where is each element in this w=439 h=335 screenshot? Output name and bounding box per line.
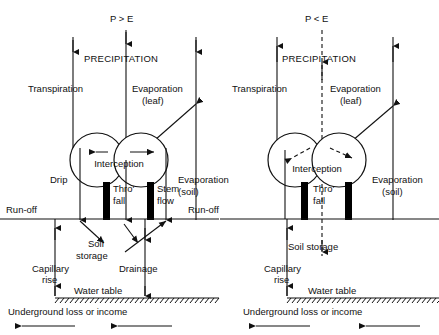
evaporation-soil-label-left-line1: Evaporation — [178, 174, 229, 185]
thro-fall-label-left-line2: fall — [113, 195, 125, 206]
trunk-right-1 — [301, 182, 308, 220]
capillary-rise-label-left-line1: Capillary — [32, 263, 69, 274]
soil-storage-arrow-left-2 — [124, 224, 138, 243]
evaporation-soil-label-right-line2: (soil) — [382, 186, 403, 197]
condition-label-left: P > E — [110, 13, 133, 24]
precipitation-label-right: PRECIPITATION — [282, 53, 356, 64]
underground-label-right: Underground loss or income — [243, 306, 362, 317]
water-table-label-left: Water table — [74, 285, 122, 296]
interception-label-left: Interception — [94, 158, 144, 169]
water-table-hatching-left — [55, 298, 219, 303]
water-table-label-right: Water table — [308, 285, 356, 296]
water-table-hatching-right — [287, 298, 439, 303]
evaporation-leaf-label-left-line1: Evaporation — [132, 83, 183, 94]
hydrological-cycle-diagram: P > E PRECIPITATION Transpiration Evapor… — [0, 0, 439, 335]
drainage-label-left: Drainage — [119, 263, 158, 274]
run-off-label-left: Run-off — [6, 204, 37, 215]
canopy-circle-right-2 — [312, 133, 366, 187]
evaporation-leaf-label-right-line1: Evaporation — [330, 83, 381, 94]
transpiration-label-right: Transpiration — [232, 83, 287, 94]
trunk-left-1 — [103, 182, 110, 220]
thro-fall-label-left-line1: Thro' — [113, 183, 135, 194]
evaporation-soil-label-left-line2: (soil) — [178, 186, 199, 197]
capillary-rise-label-left-line2: rise — [42, 274, 57, 285]
trunk-right-2 — [345, 182, 352, 220]
thro-fall-label-right-line1: Thro' — [313, 183, 335, 194]
thro-fall-label-right-line2: fall — [313, 195, 325, 206]
drip-label-left: Drip — [50, 174, 67, 185]
panel-right: P < E PRECIPITATION Transpiration Evapor… — [220, 13, 439, 326]
evaporation-leaf-label-left-line2: (leaf) — [142, 95, 164, 106]
underground-label-left: Underground loss or income — [8, 306, 127, 317]
evaporation-leaf-label-right-line2: (leaf) — [340, 95, 362, 106]
stem-flow-label-left-line2: flow — [157, 195, 174, 206]
evaporation-soil-label-right-line1: Evaporation — [372, 174, 423, 185]
trunk-left-2 — [147, 182, 154, 220]
capillary-rise-label-right-line1: Capillary — [264, 263, 301, 274]
interception-label-right: Interception — [292, 163, 342, 174]
soil-storage-label-right: Soil storage — [288, 241, 338, 252]
capillary-rise-label-right-line2: rise — [274, 274, 289, 285]
soil-storage-label-left-line2: storage — [76, 250, 108, 261]
soil-storage-label-left-line1: Soil — [88, 238, 104, 249]
condition-label-right: P < E — [305, 13, 328, 24]
precipitation-label-left: PRECIPITATION — [84, 53, 158, 64]
run-off-label-left-right: Run-off — [188, 204, 219, 215]
diagram-canvas: P > E PRECIPITATION Transpiration Evapor… — [0, 0, 439, 335]
transpiration-label-left: Transpiration — [28, 83, 83, 94]
panel-left: P > E PRECIPITATION Transpiration Evapor… — [0, 13, 229, 326]
stem-flow-label-left-line1: Stem — [157, 183, 179, 194]
